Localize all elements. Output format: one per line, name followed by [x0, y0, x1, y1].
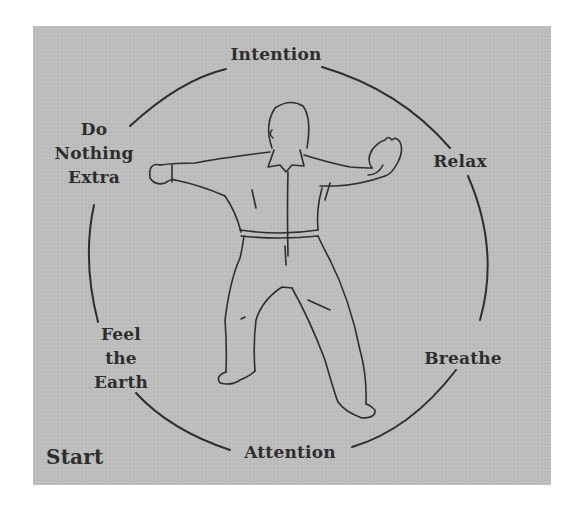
label-attention: Attention	[230, 440, 350, 464]
arc-extra-to-intention	[130, 69, 226, 126]
label-line: the	[86, 346, 156, 370]
label-line: Earth	[86, 370, 156, 394]
label-line: Extra	[44, 165, 144, 189]
label-line: Feel	[86, 322, 156, 346]
arc-earth-to-extra	[89, 205, 98, 322]
label-feel-the-earth: Feel the Earth	[86, 322, 156, 394]
arc-intention-to-relax	[322, 67, 450, 148]
label-breathe: Breathe	[418, 346, 508, 370]
label-intention: Intention	[228, 42, 324, 66]
label-line: Nothing	[44, 141, 144, 165]
label-start: Start	[46, 445, 106, 469]
label-do-nothing-extra: Do Nothing Extra	[44, 117, 144, 189]
arc-relax-to-breathe	[468, 176, 488, 320]
arc-breathe-to-attention	[352, 370, 456, 447]
label-line: Do	[44, 117, 144, 141]
arc-attention-to-earth	[136, 393, 230, 450]
label-relax: Relax	[425, 149, 495, 173]
tai-chi-figure-icon	[150, 102, 402, 418]
cycle-diagram	[0, 0, 570, 512]
